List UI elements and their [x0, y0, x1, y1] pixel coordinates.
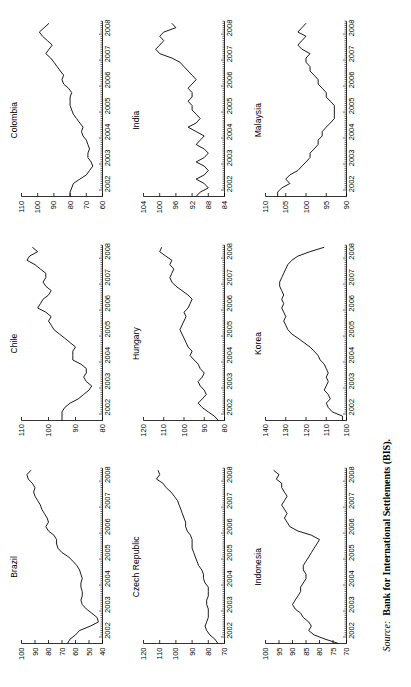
- y-tick-label: 80: [66, 200, 74, 208]
- x-tick-label: 2003: [103, 149, 111, 166]
- y-tick-label: 50: [85, 647, 93, 655]
- chart-panel-brazil: Brazil 100908070605040 20022003200420052…: [6, 464, 122, 669]
- y-tick-label: 90: [342, 200, 350, 208]
- x-tick-label: 2005: [347, 97, 355, 114]
- x-tick-label: 2006: [103, 71, 111, 88]
- y-tick-label: 80: [98, 424, 106, 432]
- x-axis-czech-republic: 2002200320042005200620072008: [224, 468, 242, 643]
- x-axis-hungary: 2002200320042005200620072008: [224, 244, 242, 419]
- line-series-korea: [265, 244, 346, 419]
- y-tick-label: 110: [322, 424, 330, 436]
- chart-panel-chile: Chile 1101009080 20022003200420052006200…: [6, 240, 122, 445]
- line-series-czech-republic: [143, 468, 224, 643]
- y-tick-label: 90: [71, 424, 79, 432]
- x-tick-label: 2004: [225, 570, 233, 587]
- y-tick-label: 40: [98, 647, 106, 655]
- plot-area-malaysia: [265, 21, 346, 196]
- y-axis-czech-republic: 120110100908070: [143, 643, 224, 669]
- y-tick-label: 110: [17, 424, 25, 436]
- x-tick-label: 2006: [347, 518, 355, 535]
- x-tick-label: 2006: [225, 518, 233, 535]
- panel-grid: Brazil 100908070605040 20022003200420052…: [6, 17, 366, 669]
- panel-title: Chile: [8, 240, 18, 445]
- y-axis-brazil: 100908070605040: [21, 643, 102, 669]
- chart-panel-korea: Korea 140130120110100 200220032004200520…: [250, 240, 366, 445]
- x-tick-label: 2002: [347, 398, 355, 415]
- x-tick-label: 2005: [225, 97, 233, 114]
- panel-title: Korea: [252, 240, 262, 445]
- x-tick-label: 2003: [347, 149, 355, 166]
- panel-title: India: [130, 17, 140, 222]
- x-tick-label: 2008: [225, 243, 233, 260]
- y-tick-label: 60: [71, 647, 79, 655]
- y-tick-label: 95: [322, 200, 330, 208]
- y-tick-label: 100: [180, 424, 188, 437]
- y-tick-label: 105: [282, 200, 290, 213]
- plot-area-indonesia: [265, 468, 346, 643]
- x-axis-chile: 2002200320042005200620072008: [102, 244, 120, 419]
- plot-area-india: [143, 21, 224, 196]
- x-axis-indonesia: 2002200320042005200620072008: [346, 468, 364, 643]
- panel-title: Czech Republic: [130, 464, 140, 669]
- y-tick-label: 85: [302, 647, 310, 655]
- y-tick-label: 100: [33, 200, 41, 213]
- y-tick-label: 90: [200, 424, 208, 432]
- y-tick-label: 130: [282, 424, 290, 437]
- y-tick-label: 90: [188, 647, 196, 655]
- x-tick-label: 2005: [103, 544, 111, 561]
- panel-title: Brazil: [8, 464, 18, 669]
- y-tick-label: 110: [17, 200, 25, 212]
- x-tick-label: 2005: [103, 97, 111, 114]
- y-axis-indonesia: 100959085807570: [265, 643, 346, 669]
- y-tick-label: 110: [261, 200, 269, 212]
- x-tick-label: 2008: [347, 243, 355, 260]
- panel-title: Colombia: [8, 17, 18, 222]
- x-axis-colombia: 2002200320042005200620072008: [102, 21, 120, 196]
- panel-title: Malaysia: [252, 17, 262, 222]
- x-tick-label: 2007: [225, 268, 233, 285]
- chart-panel-hungary: Hungary 1201101009080 200220032004200520…: [128, 240, 244, 445]
- line-series-hungary: [143, 244, 224, 419]
- x-tick-label: 2008: [347, 19, 355, 36]
- x-tick-label: 2007: [225, 492, 233, 509]
- y-tick-label: 75: [329, 647, 337, 655]
- y-axis-india: 10410096928884: [143, 196, 224, 222]
- y-tick-label: 92: [188, 200, 196, 208]
- x-tick-label: 2004: [103, 570, 111, 587]
- x-tick-label: 2008: [103, 466, 111, 483]
- panel-title: Indonesia: [252, 464, 262, 669]
- x-tick-label: 2005: [103, 320, 111, 337]
- y-tick-label: 140: [261, 424, 269, 437]
- x-tick-label: 2004: [225, 123, 233, 140]
- y-tick-label: 80: [204, 647, 212, 655]
- y-tick-label: 100: [172, 647, 180, 660]
- x-tick-label: 2002: [347, 175, 355, 192]
- source-text: Bank for International Settlements (BIS)…: [380, 439, 391, 621]
- y-tick-label: 100: [261, 647, 269, 660]
- x-tick-label: 2003: [225, 372, 233, 389]
- x-tick-label: 2002: [225, 398, 233, 415]
- x-tick-label: 2004: [347, 570, 355, 587]
- chart-panel-india: India 10410096928884 2002200320042005200…: [128, 17, 244, 222]
- plot-area-korea: [265, 244, 346, 419]
- x-tick-label: 2006: [347, 294, 355, 311]
- y-tick-label: 88: [204, 200, 212, 208]
- plot-area-brazil: [21, 468, 102, 643]
- rotated-figure-page: Brazil 100908070605040 20022003200420052…: [0, 0, 411, 687]
- x-axis-korea: 2002200320042005200620072008: [346, 244, 364, 419]
- y-tick-label: 110: [160, 424, 168, 436]
- y-tick-label: 80: [220, 424, 228, 432]
- y-tick-label: 80: [44, 647, 52, 655]
- x-tick-label: 2003: [225, 596, 233, 613]
- line-series-indonesia: [265, 468, 346, 643]
- y-axis-colombia: 11010090807060: [21, 196, 102, 222]
- x-tick-label: 2008: [347, 466, 355, 483]
- x-tick-label: 2002: [347, 622, 355, 639]
- y-tick-label: 80: [315, 647, 323, 655]
- y-tick-label: 90: [50, 200, 58, 208]
- x-tick-label: 2003: [103, 596, 111, 613]
- y-axis-malaysia: 1101051009590: [265, 196, 346, 222]
- line-series-brazil: [21, 468, 102, 643]
- x-tick-label: 2004: [103, 346, 111, 363]
- x-tick-label: 2003: [347, 372, 355, 389]
